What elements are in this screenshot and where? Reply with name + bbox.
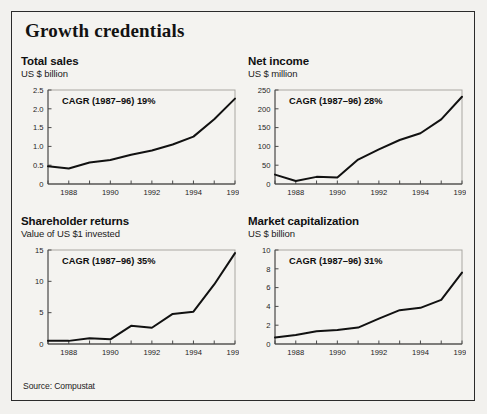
page-title: Growth credentials <box>25 20 185 42</box>
x-tick-label: 1992 <box>143 188 160 197</box>
x-tick-label: 1994 <box>185 188 202 197</box>
y-tick-label: 2 <box>266 321 270 330</box>
y-tick-label: 4 <box>266 302 270 311</box>
chart-subtitle: US $ billion <box>21 68 239 79</box>
chart-block-shareholder-returns: Shareholder returns Value of US $1 inves… <box>21 215 239 363</box>
chart-block-net-income: Net income US $ million 0501001502002501… <box>248 55 466 203</box>
data-line <box>48 99 235 169</box>
x-tick-label: 1988 <box>60 348 77 357</box>
y-tick-label: 2.5 <box>33 86 44 95</box>
x-tick-label: 1992 <box>370 348 387 357</box>
y-tick-label: 50 <box>262 161 270 170</box>
chart-subtitle: Value of US $1 invested <box>21 228 239 239</box>
x-tick-label: 1994 <box>412 188 429 197</box>
x-tick-label: 1988 <box>287 188 304 197</box>
chart-plot-net-income: 05010015020025019881990199219941996CAGR … <box>248 85 466 203</box>
chart-subtitle: US $ billion <box>248 228 466 239</box>
chart-title: Market capitalization <box>248 215 466 227</box>
data-line <box>48 253 235 341</box>
y-tick-label: 0 <box>266 340 270 349</box>
y-tick-label: 10 <box>262 246 270 255</box>
y-tick-label: 1.0 <box>33 142 44 151</box>
y-tick-label: 0 <box>266 180 270 189</box>
y-tick-label: 0.5 <box>33 161 44 170</box>
data-line <box>275 97 462 181</box>
x-tick-label: 1994 <box>185 348 202 357</box>
y-tick-label: 0 <box>39 340 43 349</box>
x-tick-label: 1992 <box>143 348 160 357</box>
x-tick-label: 1994 <box>412 348 429 357</box>
source-note: Source: Compustat <box>23 381 95 391</box>
chart-plot-shareholder-returns: 05101519881990199219941996CAGR (1987–96)… <box>21 245 239 363</box>
y-tick-label: 15 <box>35 246 43 255</box>
y-tick-label: 100 <box>258 142 271 151</box>
chart-plot-market-capitalization: 024681019881990199219941996CAGR (1987–96… <box>248 245 466 363</box>
x-tick-label: 1990 <box>329 188 346 197</box>
cagr-annotation: CAGR (1987–96) 28% <box>289 96 383 106</box>
x-tick-label: 1996 <box>227 348 239 357</box>
y-tick-label: 1.5 <box>33 123 44 132</box>
x-tick-label: 1990 <box>329 348 346 357</box>
y-tick-label: 8 <box>266 265 270 274</box>
x-tick-label: 1990 <box>102 348 119 357</box>
chart-title: Total sales <box>21 55 239 67</box>
y-tick-label: 2.0 <box>33 105 44 114</box>
x-tick-label: 1996 <box>454 188 466 197</box>
chart-title: Shareholder returns <box>21 215 239 227</box>
growth-credentials-panel: Growth credentials Total sales US $ bill… <box>11 11 475 401</box>
y-tick-label: 250 <box>258 86 271 95</box>
y-tick-label: 10 <box>35 277 43 286</box>
data-line <box>275 273 462 338</box>
chart-svg: 05101519881990199219941996CAGR (1987–96)… <box>21 245 239 363</box>
chart-block-total-sales: Total sales US $ billion 00.51.01.52.02.… <box>21 55 239 203</box>
chart-title: Net income <box>248 55 466 67</box>
x-tick-label: 1988 <box>287 348 304 357</box>
y-tick-label: 5 <box>39 308 43 317</box>
cagr-annotation: CAGR (1987–96) 19% <box>62 96 156 106</box>
y-tick-label: 200 <box>258 105 271 114</box>
x-tick-label: 1996 <box>454 348 466 357</box>
y-tick-label: 6 <box>266 283 270 292</box>
chart-block-market-capitalization: Market capitalization US $ billion 02468… <box>248 215 466 363</box>
chart-svg: 024681019881990199219941996CAGR (1987–96… <box>248 245 466 363</box>
chart-svg: 00.51.01.52.02.519881990199219941996CAGR… <box>21 85 239 203</box>
x-tick-label: 1992 <box>370 188 387 197</box>
y-tick-label: 150 <box>258 123 271 132</box>
cagr-annotation: CAGR (1987–96) 31% <box>289 256 383 266</box>
cagr-annotation: CAGR (1987–96) 35% <box>62 256 156 266</box>
chart-plot-total-sales: 00.51.01.52.02.519881990199219941996CAGR… <box>21 85 239 203</box>
x-tick-label: 1988 <box>60 188 77 197</box>
x-tick-label: 1990 <box>102 188 119 197</box>
chart-subtitle: US $ million <box>248 68 466 79</box>
x-tick-label: 1996 <box>227 188 239 197</box>
chart-svg: 05010015020025019881990199219941996CAGR … <box>248 85 466 203</box>
y-tick-label: 0 <box>39 180 43 189</box>
